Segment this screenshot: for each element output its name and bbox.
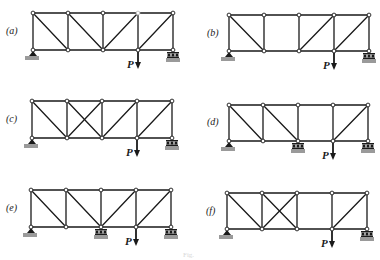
pin-support-icon	[221, 142, 235, 151]
joint-icon	[31, 11, 35, 15]
pin-support-icon	[221, 52, 235, 61]
panel-label: (c)	[6, 113, 18, 125]
joint-icon	[169, 225, 173, 229]
panel-label: (f)	[206, 205, 216, 217]
joint-icon	[330, 227, 334, 231]
roller-support-icon	[360, 231, 374, 241]
joint-icon	[365, 191, 369, 195]
load-label: P	[126, 146, 133, 158]
joint-icon	[136, 48, 140, 52]
joint-icon	[29, 225, 33, 229]
joint-icon	[262, 13, 266, 17]
joint-icon	[135, 99, 139, 103]
joint-icon	[332, 13, 336, 17]
diagonal-member	[137, 101, 172, 138]
joint-icon	[227, 49, 231, 53]
diagonal-member	[229, 105, 263, 141]
joint-icon	[171, 11, 175, 15]
joint-icon	[65, 136, 69, 140]
joint-icon	[365, 227, 369, 231]
diagonal-member	[299, 15, 334, 51]
load-arrow-icon	[134, 140, 140, 157]
joint-icon	[262, 49, 266, 53]
load-arrow-icon	[133, 229, 139, 246]
joint-icon	[135, 136, 139, 140]
joint-icon	[64, 225, 68, 229]
diagonal-member	[31, 190, 66, 227]
truss-panel-c: (c)P	[6, 99, 179, 158]
roller-support-icon	[166, 52, 180, 62]
truss-panel-e: (e)P	[6, 188, 178, 247]
load-label: P	[322, 149, 329, 161]
joint-icon	[101, 11, 105, 15]
diagonal-member	[68, 13, 103, 50]
joint-icon	[134, 225, 138, 229]
roller-support-icon	[291, 143, 305, 153]
diagonal-member	[33, 13, 68, 50]
joint-icon	[170, 136, 174, 140]
joint-icon	[31, 48, 35, 52]
roller-support-icon	[361, 143, 375, 153]
joint-icon	[295, 227, 299, 231]
pin-support-icon	[25, 51, 39, 60]
joint-icon	[332, 49, 336, 53]
diagonal-member	[32, 101, 67, 138]
diagonal-member	[66, 190, 101, 227]
roller-support-icon	[94, 229, 108, 239]
diagonal-member	[332, 193, 367, 229]
joint-icon	[331, 103, 335, 107]
pin-support-icon	[23, 228, 37, 237]
joint-icon	[330, 191, 334, 195]
joint-icon	[366, 103, 370, 107]
joint-icon	[66, 11, 70, 15]
diagonal-member	[136, 190, 171, 227]
figure-caption: Fig.	[183, 251, 194, 259]
joint-icon	[30, 136, 34, 140]
joint-icon	[136, 11, 140, 15]
load-label: P	[125, 235, 132, 247]
joint-icon	[227, 103, 231, 107]
load-arrow-icon	[329, 231, 335, 248]
load-label: P	[321, 237, 328, 249]
joint-icon	[295, 191, 299, 195]
joint-icon	[30, 99, 34, 103]
diagonal-member	[263, 105, 298, 141]
diagonal-member	[229, 15, 264, 51]
diagonal-member	[103, 13, 138, 50]
diagonal-member	[333, 105, 368, 141]
joint-icon	[297, 49, 301, 53]
joint-icon	[100, 136, 104, 140]
diagonal-member	[334, 15, 369, 51]
joint-icon	[101, 48, 105, 52]
truss-panel-d: (d)P	[207, 103, 375, 161]
joint-icon	[260, 227, 264, 231]
panel-label: (b)	[207, 27, 219, 39]
truss-panel-a: (a)P	[6, 11, 180, 70]
joint-icon	[296, 139, 300, 143]
joint-icon	[297, 13, 301, 17]
panel-label: (d)	[207, 116, 219, 128]
truss-panel-b: (b)P	[207, 13, 376, 71]
joint-icon	[227, 139, 231, 143]
load-arrow-icon	[330, 143, 336, 160]
roller-support-icon	[164, 229, 178, 239]
joint-icon	[227, 13, 231, 17]
pin-support-icon	[219, 230, 233, 239]
pin-support-icon	[24, 139, 38, 148]
diagonal-member	[102, 101, 137, 138]
joint-icon	[367, 49, 371, 53]
joint-icon	[225, 191, 229, 195]
load-arrow-icon	[135, 52, 141, 69]
truss-figure: (a)P(b)P(c)P(d)P(e)P(f)P Fig.	[0, 0, 380, 260]
joint-icon	[366, 139, 370, 143]
joint-icon	[134, 188, 138, 192]
joint-icon	[66, 48, 70, 52]
panel-label: (e)	[6, 202, 18, 214]
roller-support-icon	[362, 53, 376, 63]
joint-icon	[331, 139, 335, 143]
joint-icon	[170, 99, 174, 103]
joint-icon	[225, 227, 229, 231]
load-label: P	[323, 59, 330, 71]
joint-icon	[29, 188, 33, 192]
load-label: P	[127, 58, 134, 70]
